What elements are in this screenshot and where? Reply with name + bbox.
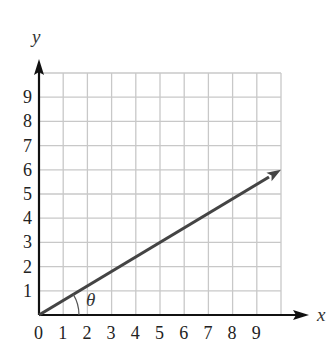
x-tick-label: 2 bbox=[82, 323, 91, 343]
x-tick-label: 6 bbox=[179, 323, 188, 343]
x-tick-label: 1 bbox=[58, 323, 67, 343]
vector-arrowhead-icon bbox=[266, 170, 281, 181]
y-axis-label: y bbox=[30, 26, 41, 47]
y-tick-label: 7 bbox=[23, 136, 32, 156]
y-tick-label: 1 bbox=[23, 281, 32, 301]
angle-arc bbox=[73, 294, 79, 315]
x-tick-label: 8 bbox=[228, 323, 237, 343]
y-tick-label: 2 bbox=[23, 257, 32, 277]
x-tick-label: 4 bbox=[131, 323, 140, 343]
x-tick-label: 9 bbox=[252, 323, 261, 343]
x-tick-label: 3 bbox=[107, 323, 116, 343]
x-axis-label: x bbox=[316, 304, 326, 325]
x-tick-label: 0 bbox=[34, 323, 43, 343]
y-tick-label: 8 bbox=[23, 111, 32, 131]
y-tick-label: 5 bbox=[23, 184, 32, 204]
y-tick-label: 6 bbox=[23, 160, 32, 180]
theta-label: θ bbox=[86, 289, 95, 310]
coordinate-plot: xy0123456789123456789θ bbox=[0, 0, 328, 364]
y-tick-label: 4 bbox=[23, 208, 32, 228]
y-tick-label: 9 bbox=[23, 87, 32, 107]
x-tick-label: 7 bbox=[203, 323, 212, 343]
x-tick-label: 5 bbox=[155, 323, 164, 343]
vector-line bbox=[39, 177, 269, 315]
y-tick-label: 3 bbox=[23, 232, 32, 252]
